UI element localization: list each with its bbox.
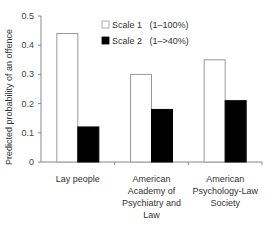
y-axis-label: Predicted probability of an offence xyxy=(4,29,14,165)
y-tick-label: 0.5 xyxy=(21,11,34,21)
category-label: Society xyxy=(210,198,240,208)
y-tick-label: 0.4 xyxy=(21,40,34,50)
y-tick-label: 0.2 xyxy=(21,99,34,109)
y-tick-label: 0.3 xyxy=(21,69,34,79)
bar-1 xyxy=(131,74,152,162)
legend-label: Scale 1 (1–100%) xyxy=(112,20,189,30)
category-label: Academy of xyxy=(128,186,176,196)
category-label: Psychology-Law xyxy=(192,186,258,196)
legend-swatch xyxy=(102,37,109,44)
category-label: Law xyxy=(143,210,160,220)
bars xyxy=(57,34,246,162)
legend-swatch xyxy=(102,21,109,28)
bar-chart: 00.10.20.30.40.5 Lay peopleAmericanAcade… xyxy=(0,0,274,228)
bar-2 xyxy=(225,101,246,162)
legend-label: Scale 2 (1–>40%) xyxy=(112,36,189,46)
y-tick-label: 0 xyxy=(29,157,34,167)
category-label: American xyxy=(206,174,244,184)
category-labels: Lay peopleAmericanAcademy ofPsychiatry a… xyxy=(56,174,259,220)
y-tick-label: 0.1 xyxy=(21,128,34,138)
category-label: American xyxy=(132,174,170,184)
bar-2 xyxy=(78,127,99,162)
category-label: Lay people xyxy=(56,174,100,184)
bar-1 xyxy=(57,34,78,162)
legend: Scale 1 (1–100%)Scale 2 (1–>40%) xyxy=(102,20,189,46)
bar-2 xyxy=(152,109,173,162)
bar-1 xyxy=(204,60,225,162)
category-label: Psychiatry and xyxy=(122,198,181,208)
